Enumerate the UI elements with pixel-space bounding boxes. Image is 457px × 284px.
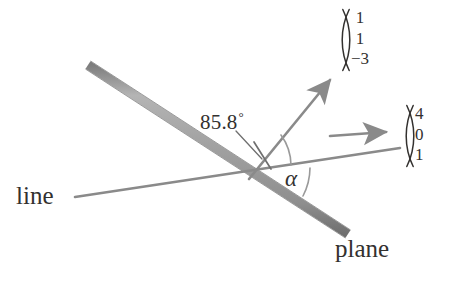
angle-arc-alpha	[303, 168, 310, 196]
line-direction-component-3: 1	[415, 145, 424, 166]
plane-normal-component-2: 1	[356, 29, 365, 50]
plane-normal-component-3: −3	[351, 49, 369, 70]
line-label: line	[16, 183, 54, 208]
plane-normal-components: 1 1 −3	[350, 8, 370, 70]
plane-label: plane	[335, 236, 389, 261]
angle-85-8-value: 85.8	[200, 110, 238, 134]
line-direction-component-1: 4	[415, 104, 424, 125]
alpha-label: α	[285, 167, 297, 190]
plane-normal-vector: 1 1 −3	[341, 8, 379, 70]
plane-normal-component-1: 1	[356, 8, 365, 29]
angle-85-8-label: 85.8°	[200, 110, 244, 133]
plane-band	[85, 61, 350, 238]
line-stroke	[75, 148, 400, 197]
degree-symbol: °	[239, 109, 244, 124]
line-direction-component-2: 0	[415, 125, 424, 146]
line-direction-vector: 4 0 1	[405, 104, 434, 166]
line-direction-components: 4 0 1	[414, 104, 425, 166]
angle-leader-line	[236, 131, 262, 159]
line-direction-arrow	[330, 132, 386, 136]
diagram-canvas: line plane 85.8° α 1 1 −3 4	[0, 0, 457, 284]
